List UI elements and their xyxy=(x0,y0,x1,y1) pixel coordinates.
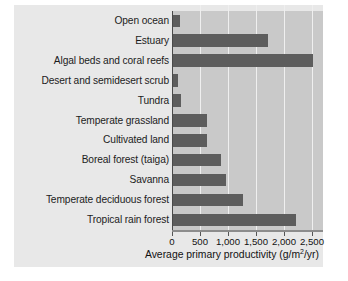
bar-row: Tundra xyxy=(14,91,323,111)
bar-row: Tropical rain forest xyxy=(14,210,323,230)
category-label: Desert and semidesert scrub xyxy=(41,71,169,91)
figure: Open oceanEstuaryAlgal beds and coral re… xyxy=(0,0,348,281)
axis-tick-label: 2,500 xyxy=(300,236,324,247)
x-axis-title: Average primary productivity (g/m2/yr) xyxy=(14,249,319,260)
category-label: Savanna xyxy=(129,170,169,190)
category-label: Temperate deciduous forest xyxy=(46,190,169,210)
category-label: Estuary xyxy=(135,31,169,51)
bar-row: Open ocean xyxy=(14,11,323,31)
bar xyxy=(173,114,207,127)
bar xyxy=(173,154,221,167)
bar xyxy=(173,134,207,147)
x-axis-title-suffix: /yr) xyxy=(304,249,319,260)
axis-tick-label: 1,000 xyxy=(216,236,240,247)
bar-row: Temperate deciduous forest xyxy=(14,190,323,210)
bar-row: Algal beds and coral reefs xyxy=(14,51,323,71)
axis-tick-label: 500 xyxy=(192,236,208,247)
bar-row: Boreal forest (taiga) xyxy=(14,150,323,170)
category-label: Open ocean xyxy=(114,11,169,31)
value-axis-line xyxy=(172,230,323,232)
plot-area: Open oceanEstuaryAlgal beds and coral re… xyxy=(14,5,323,233)
bar-row: Estuary xyxy=(14,31,323,51)
bar xyxy=(173,214,296,227)
category-label: Cultivated land xyxy=(103,130,169,150)
category-label: Tundra xyxy=(138,91,169,111)
bar xyxy=(173,15,180,28)
bar-row: Desert and semidesert scrub xyxy=(14,71,323,91)
bar xyxy=(173,54,313,67)
bar-row: Temperate grassland xyxy=(14,111,323,131)
category-label: Temperate grassland xyxy=(76,111,169,131)
axis-tick-label: 0 xyxy=(169,236,174,247)
bar xyxy=(173,74,178,87)
bar xyxy=(173,94,181,107)
bar-row: Savanna xyxy=(14,170,323,190)
category-label: Tropical rain forest xyxy=(87,210,169,230)
x-axis-title-prefix: Average primary productivity (g/m xyxy=(145,249,300,260)
bar xyxy=(173,194,243,207)
category-label: Algal beds and coral reefs xyxy=(54,51,169,71)
bar xyxy=(173,34,268,47)
chart-card: Open oceanEstuaryAlgal beds and coral re… xyxy=(14,5,323,267)
axis-tick-label: 2,000 xyxy=(272,236,296,247)
category-label: Boreal forest (taiga) xyxy=(82,150,169,170)
bar xyxy=(173,174,226,187)
bar-row: Cultivated land xyxy=(14,130,323,150)
axis-tick-label: 1,500 xyxy=(244,236,268,247)
